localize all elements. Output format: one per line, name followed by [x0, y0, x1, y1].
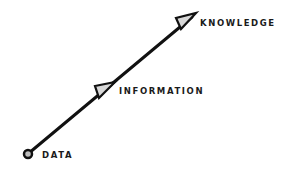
information-arrowhead-icon — [95, 82, 115, 98]
knowledge-arrowhead-icon — [176, 13, 196, 29]
dikw-diagram: DATA INFORMATION KNOWLEDGE — [0, 0, 296, 174]
information-label: INFORMATION — [119, 86, 204, 96]
knowledge-label: KNOWLEDGE — [200, 18, 276, 28]
data-label: DATA — [42, 150, 73, 160]
data-node-icon — [24, 150, 32, 158]
